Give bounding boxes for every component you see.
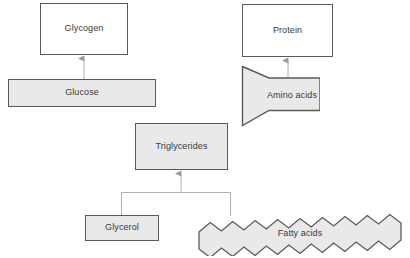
node-triglycerides[interactable]: Triglycerides bbox=[135, 123, 228, 170]
node-glucose[interactable]: Glucose bbox=[8, 79, 156, 107]
node-protein-label: Protein bbox=[273, 26, 302, 36]
node-protein[interactable]: Protein bbox=[242, 4, 333, 57]
node-glucose-label: Glucose bbox=[65, 88, 99, 98]
node-glycerol-label: Glycerol bbox=[105, 223, 139, 233]
pennant-shape-icon bbox=[241, 65, 320, 127]
node-amino-acids[interactable]: Amino acids bbox=[241, 65, 320, 127]
node-triglycerides-label: Triglycerides bbox=[156, 142, 208, 152]
zigzag-band-shape-icon bbox=[196, 211, 404, 256]
diagram-canvas: Glycogen Glucose Protein Amino acids Tri… bbox=[0, 0, 410, 258]
node-fatty-acids[interactable]: Fatty acids bbox=[196, 211, 404, 256]
node-glycogen[interactable]: Glycogen bbox=[40, 3, 128, 55]
node-glycogen-label: Glycogen bbox=[65, 24, 104, 34]
shape-layer: Glycogen Glucose Protein Amino acids Tri… bbox=[0, 0, 410, 258]
node-glycerol[interactable]: Glycerol bbox=[85, 215, 159, 241]
